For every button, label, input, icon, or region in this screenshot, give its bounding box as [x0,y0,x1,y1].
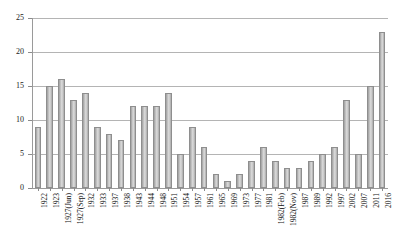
x-tick-mark [216,188,217,191]
x-tick-mark [358,188,359,191]
x-tick-mark [85,188,86,191]
x-tick-mark [382,188,383,191]
x-tick-mark [263,188,264,191]
x-tick-label: 2002 [349,193,357,208]
x-tick-mark [50,188,51,191]
y-tick-label: 10 [0,116,24,124]
bar [236,174,243,188]
bar [379,32,386,188]
bar [35,127,42,188]
x-tick-mark [74,188,75,191]
bar [272,161,279,188]
y-tick-label: 15 [0,82,24,90]
y-tick-label: 25 [0,14,24,22]
x-tick-mark [275,188,276,191]
bar [70,100,77,188]
x-tick-label: 2016 [385,193,393,208]
x-tick-mark [311,188,312,191]
bar [130,106,137,188]
x-tick-mark [252,188,253,191]
x-tick-mark [204,188,205,191]
x-tick-label: 2011 [373,193,381,208]
x-tick-label: 1989 [314,193,322,208]
bar [82,93,89,188]
x-tick-mark [109,188,110,191]
x-tick-label: 1969 [231,193,239,208]
x-tick-label: 1932 [88,193,96,208]
x-tick-mark [192,188,193,191]
x-tick-mark [145,188,146,191]
x-tick-mark [133,188,134,191]
x-tick-label: 1927(Sep) [77,193,85,224]
x-tick-mark [287,188,288,191]
x-tick-label: 2007 [361,193,369,208]
x-tick-label: 1933 [100,193,108,208]
bar [308,161,315,188]
bar [224,181,231,188]
x-tick-mark [370,188,371,191]
x-tick-label: 1937 [112,193,120,208]
x-tick-label: 1961 [207,193,215,208]
x-tick-label: 1927(Jun) [65,193,73,223]
x-tick-label: 1982(Feb) [278,193,286,224]
bars-group [32,18,388,188]
x-tick-mark [323,188,324,191]
x-tick-mark [180,188,181,191]
x-tick-label: 1992 [326,193,334,208]
bar [343,100,350,188]
x-tick-label: 1965 [219,193,227,208]
x-tick-mark [62,188,63,191]
x-tick-label: 1977 [255,193,263,208]
bar [189,127,196,188]
x-tick-label: 1981 [266,193,274,208]
bar [94,127,101,188]
x-tick-label: 1948 [160,193,168,208]
bar [367,86,374,188]
bar [201,147,208,188]
x-tick-mark [97,188,98,191]
bar [355,154,362,188]
x-tick-mark [157,188,158,191]
x-tick-label: 1944 [148,193,156,208]
bar-chart: 0510152025 192219231927(Jun)1927(Sep)193… [0,0,396,251]
x-tick-label: 1951 [171,193,179,208]
x-tick-mark [168,188,169,191]
x-tick-label: 1938 [124,193,132,208]
bar [106,134,113,188]
x-tick-mark [299,188,300,191]
bar [141,106,148,188]
bar [248,161,255,188]
x-tick-label: 1982(Nov) [290,193,298,226]
x-tick-label: 1943 [136,193,144,208]
bar [165,93,172,188]
y-tick-label: 5 [0,150,24,158]
bar [296,168,303,188]
bar [331,147,338,188]
x-tick-mark [121,188,122,191]
bar [213,174,220,188]
bar [118,140,125,188]
bar [319,154,326,188]
x-tick-label: 1997 [338,193,346,208]
bar [177,154,184,188]
x-tick-label: 1954 [183,193,191,208]
x-tick-mark [335,188,336,191]
bar [284,168,291,188]
bar [46,86,53,188]
x-tick-mark [346,188,347,191]
y-tick-label: 20 [0,48,24,56]
x-tick-mark [240,188,241,191]
y-tick-label: 0 [0,184,24,192]
x-tick-label: 1923 [53,193,61,208]
x-tick-label: 1922 [41,193,49,208]
bar [153,106,160,188]
x-tick-label: 1957 [195,193,203,208]
x-tick-mark [38,188,39,191]
x-tick-label: 1973 [243,193,251,208]
bar [260,147,267,188]
x-tick-label: 1987 [302,193,310,208]
x-axis-labels: 192219231927(Jun)1927(Sep)19321933193719… [32,188,388,251]
bar [58,79,65,188]
x-tick-mark [228,188,229,191]
